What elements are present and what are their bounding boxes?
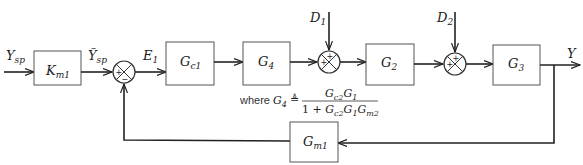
svg-text:+: +: [321, 58, 328, 67]
summing-junction-3: + +: [444, 53, 466, 75]
svg-text:+: +: [453, 54, 460, 63]
input-label: Ysp: [6, 48, 25, 65]
feedback-wire-left: [124, 84, 290, 141]
disturbance1-label: D1: [309, 10, 326, 27]
svg-text:where: where: [239, 94, 270, 106]
summing-junction-2: + +: [318, 51, 340, 73]
svg-text:1 + Gc2G1Gm2: 1 + Gc2G1Gm2: [302, 103, 379, 118]
disturbance2-label: D2: [436, 10, 453, 27]
svg-text:≜: ≜: [290, 93, 299, 106]
error-label: E1: [142, 48, 158, 65]
svg-text:+: +: [327, 52, 334, 61]
svg-text:+: +: [447, 60, 454, 69]
svg-text:−: −: [122, 75, 129, 84]
block-diagram: Ysp Km1 Ỹsp + − E1 Gc1 G4 D1 + + G2: [0, 0, 583, 165]
svg-text:Gc2G1: Gc2G1: [325, 87, 357, 102]
output-label: Y: [567, 46, 577, 61]
g4-definition-note: where G4 ≜ Gc2G1 1 + Gc2G1Gm2: [239, 87, 379, 118]
svg-text:G4: G4: [273, 94, 287, 109]
summing-junction-1: + −: [113, 61, 135, 84]
scaled-input-label: Ỹsp: [88, 48, 107, 65]
